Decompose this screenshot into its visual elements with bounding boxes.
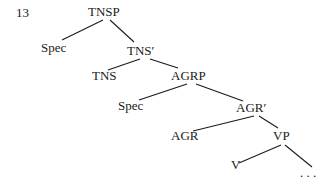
tree-edge (239, 145, 281, 163)
tree-edge (285, 145, 312, 167)
tree-node-tns: TNS (92, 68, 117, 83)
tree-edge (150, 59, 178, 68)
tree-node-tnsp: TNSP (88, 4, 120, 19)
tree-node-v: V (231, 157, 240, 172)
tree-node-agr: AGR (171, 128, 198, 143)
tree-edges (0, 0, 335, 184)
tree-node-tns_bar: TNS′ (127, 43, 154, 58)
tree-node-vp: VP (273, 128, 290, 143)
tree-node-spec2: Spec (118, 98, 143, 113)
tree-edge (139, 84, 187, 100)
tree-edge (62, 20, 103, 40)
tree-node-agrp: AGRP (171, 68, 206, 83)
tree-edge (259, 116, 278, 128)
tree-edge (110, 20, 134, 42)
tree-edge (193, 116, 254, 131)
tree-node-spec1: Spec (41, 40, 66, 55)
tree-node-ellipsis: . . . (300, 165, 316, 180)
tree-edge (196, 84, 243, 101)
tree-node-agr_bar: AGR′ (236, 100, 266, 115)
